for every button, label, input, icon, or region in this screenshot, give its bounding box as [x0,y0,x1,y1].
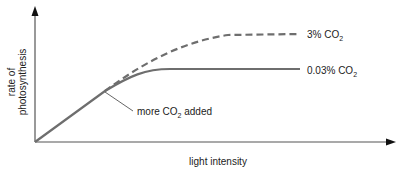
label-0.03pct-co2: 0.03% CO2 [307,65,357,78]
y-axis-label: rate of photosynthesis [6,49,28,116]
x-axis-arrow-icon [386,139,396,146]
x-axis-label: light intensity [189,156,247,167]
y-axis-arrow-icon [32,6,39,16]
y-axis-label-line1: rate of [6,68,17,97]
label-3pct-co2: 3% CO2 [307,29,343,42]
annotation-more-co2-added: more CO2 added [137,106,212,119]
annotation-leader-line [105,92,133,111]
chart-canvas: more CO2 added 3% CO2 0.03% CO2 light in… [0,0,402,176]
y-axis-label-line2: photosynthesis [17,49,28,116]
curve-3pct-co2 [105,34,300,91]
